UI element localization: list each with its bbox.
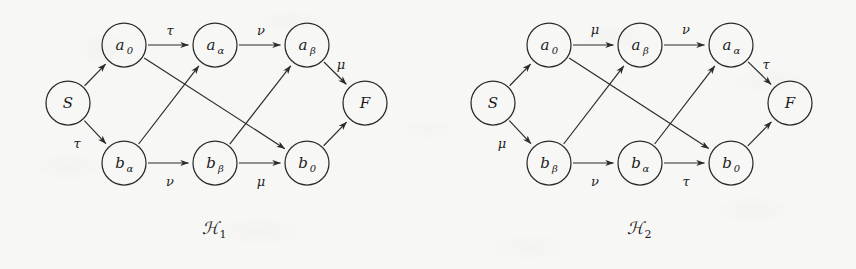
edge-label-H2-aalpha-to-F: τ [762,57,770,72]
node-H1-bbeta: bβ [193,141,237,185]
edge-label-H2-bbeta-to-balpha: ν [591,174,599,189]
node-subscript-H1-abeta: β [309,45,316,56]
node-label-H2-b0: b [722,154,732,172]
edge-label-H1-balpha-to-bbeta: ν [166,174,174,189]
node-subscript-H2-balpha: α [643,163,650,174]
node-label-H1-S: S [63,94,73,112]
graph-caption-base-H1: ℋ [202,218,222,238]
edge-H2-a0-to-b0 [569,58,709,149]
edge-H1-S-to-balpha [84,121,106,144]
node-subscript-H1-balpha: α [127,163,134,174]
figure-root: Sa0aαaβbαbβb0FSa0aβaαbβbαb0F ττννμμμμνντ… [0,0,856,269]
edge-H1-a0-to-b0 [144,58,285,149]
node-H2-F: F [768,81,812,125]
graph-caption-H1: ℋ1 [202,218,227,241]
node-subscript-H2-aalpha: α [734,45,741,56]
nodes-group: Sa0aαaβbαbβb0FSa0aβaαbβbαb0F [46,23,812,185]
edge-H2-S-to-bbeta [509,121,531,144]
edge-label-H2-abeta-to-aalpha: ν [682,22,690,37]
edge-H2-bbeta-to-abeta [564,66,624,144]
automata-figure-canvas: Sa0aαaβbαbβb0FSa0aβaαbβbαb0F ττννμμμμνντ… [0,0,856,269]
node-H1-F: F [343,81,387,125]
node-label-H2-F: F [784,94,796,112]
node-H1-a0: a0 [102,23,146,67]
graph-caption-H2: ℋ2 [627,218,652,241]
edge-label-H2-balpha-to-b0: τ [682,174,690,189]
graph-caption-subscript-H2: 2 [645,228,652,241]
node-H2-bbeta: bβ [527,141,571,185]
node-label-H2-bbeta: b [540,154,550,172]
node-H2-balpha: bα [618,141,662,185]
node-label-H1-F: F [359,94,371,112]
node-subscript-H1-a0: 0 [127,45,134,56]
node-subscript-H1-b0: 0 [310,163,317,174]
edge-label-H1-abeta-to-F: μ [337,57,345,72]
node-H2-S: S [471,81,515,125]
edge-label-H2-a0-to-abeta: μ [591,22,599,37]
node-label-H2-abeta: a [632,36,641,54]
edge-label-H1-a0-to-aalpha: τ [166,23,174,38]
node-H1-S: S [46,81,90,125]
node-label-H2-balpha: b [631,154,641,172]
edge-H1-b0-to-F [324,122,347,146]
graph-caption-base-H2: ℋ [627,218,647,238]
edge-H2-b0-to-F [748,122,772,146]
node-label-H2-S: S [488,94,498,112]
edge-label-H1-bbeta-to-b0: μ [257,174,265,189]
node-subscript-H2-abeta: β [642,45,649,56]
node-H1-abeta: aβ [285,23,329,67]
node-label-H2-a0: a [541,36,550,54]
node-H1-aalpha: aα [193,23,237,67]
edge-H1-balpha-to-aalpha [139,66,199,144]
edge-H1-S-to-a0 [85,64,106,86]
edge-label-H1-aalpha-to-abeta: ν [257,23,265,38]
node-subscript-H1-aalpha: α [218,45,225,56]
node-subscript-H2-b0: 0 [734,163,741,174]
node-H2-abeta: aβ [618,23,662,67]
node-label-H1-abeta: a [299,36,308,54]
node-H2-aalpha: aα [709,23,753,67]
node-subscript-H2-a0: 0 [552,45,559,56]
node-label-H1-b0: b [298,154,308,172]
edge-label-H2-S-to-bbeta: μ [498,136,506,151]
node-label-H1-a0: a [116,36,125,54]
node-H1-b0: b0 [285,141,329,185]
node-subscript-H1-bbeta: β [217,163,224,174]
graph-caption-subscript-H1: 1 [220,228,227,241]
node-H1-balpha: bα [102,141,146,185]
node-label-H1-aalpha: a [207,36,216,54]
node-subscript-H2-bbeta: β [551,163,558,174]
node-H2-a0: a0 [527,23,571,67]
node-label-H2-aalpha: a [723,36,732,54]
edge-H2-S-to-a0 [510,64,531,86]
node-label-H1-bbeta: b [206,154,216,172]
edges-group [84,45,771,163]
node-H2-b0: b0 [709,141,753,185]
captions-group: ℋ1ℋ2 [202,218,652,241]
edge-label-H1-S-to-balpha: τ [73,136,81,151]
node-label-H1-balpha: b [115,154,125,172]
